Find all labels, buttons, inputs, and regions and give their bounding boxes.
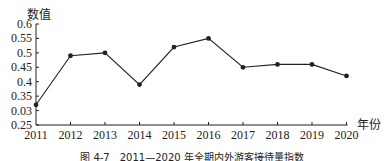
y-tick-label: 0.45 (11, 60, 32, 74)
x-tick-label: 2016 (197, 128, 221, 142)
data-point-marker (68, 53, 73, 58)
data-point-marker (310, 62, 315, 67)
chart-canvas: 0.250.030.350.40.450.50.550.6 2011201220… (0, 0, 384, 161)
data-point-marker (172, 45, 177, 50)
series-line (36, 38, 347, 104)
y-axis-label: 数值 (27, 7, 51, 22)
data-point-marker (275, 62, 280, 67)
data-point-marker (241, 65, 246, 70)
line-chart: 0.250.030.350.40.450.50.550.6 2011201220… (0, 0, 384, 161)
y-tick-label: 0.5 (17, 46, 32, 60)
data-point-marker (103, 50, 108, 55)
y-tick-label: 0.55 (11, 31, 32, 45)
y-tick-label: 0.03 (11, 104, 32, 118)
x-tick-label: 2011 (24, 128, 48, 142)
x-axis: 2011201220132014201520162017201820192020 (24, 122, 358, 142)
data-point-marker (344, 74, 349, 79)
figure-caption: 图 4-7 2011—2020 年全期内外游客接待量指数 (0, 149, 384, 161)
data-point-marker (137, 82, 142, 87)
x-tick-label: 2018 (266, 128, 290, 142)
x-tick-label: 2015 (162, 128, 186, 142)
y-axis: 0.250.030.350.40.450.50.550.6 (11, 17, 39, 132)
x-tick-label: 2017 (231, 128, 255, 142)
x-tick-label: 2020 (335, 128, 359, 142)
data-point-marker (34, 102, 39, 107)
x-tick-label: 2019 (300, 128, 324, 142)
y-tick-label: 0.35 (11, 89, 32, 103)
y-tick-label: 0.4 (17, 75, 32, 89)
x-tick-label: 2013 (93, 128, 117, 142)
x-tick-label: 2012 (59, 128, 83, 142)
x-tick-label: 2014 (128, 128, 152, 142)
data-series (34, 36, 349, 107)
data-point-marker (206, 36, 211, 41)
x-axis-label: 年份 (357, 118, 381, 132)
